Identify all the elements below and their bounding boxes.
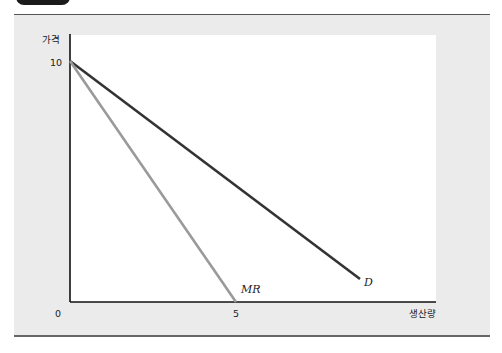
demand-label: D: [363, 276, 373, 289]
plot-area: [70, 35, 436, 302]
origin-label: 0: [55, 308, 61, 319]
y-tick-10: 10: [50, 57, 62, 68]
x-axis-label: 생산량: [409, 308, 436, 319]
chart: 가격 10 0 5 생산량 D MR: [0, 0, 502, 353]
x-tick-5: 5: [233, 308, 239, 319]
y-axis-label: 가격: [42, 34, 60, 45]
mr-label: MR: [240, 283, 261, 296]
